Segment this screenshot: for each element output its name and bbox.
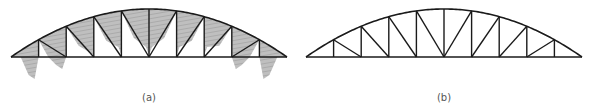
diagonal-member — [499, 26, 527, 57]
moment-diagram — [66, 17, 94, 55]
truss-figure — [0, 0, 594, 111]
caption-a: (a) — [129, 92, 169, 103]
truss-panel-b — [306, 9, 582, 57]
moment-diagram — [94, 11, 122, 55]
moment-diagram — [11, 40, 39, 79]
moment-diagram — [204, 17, 232, 55]
diagonal-member — [416, 11, 444, 57]
caption-b: (b) — [424, 92, 464, 103]
moment-diagram — [149, 9, 177, 55]
diagonal-member — [334, 40, 362, 57]
diagonal-member — [527, 40, 555, 57]
moment-diagram — [259, 40, 287, 79]
diagonal-member — [389, 17, 417, 57]
diagonal-member — [444, 11, 472, 57]
truss-panel-a — [11, 9, 287, 79]
diagonal-member — [472, 17, 500, 57]
moment-diagram — [121, 9, 149, 55]
moment-diagram — [177, 11, 205, 55]
diagonal-member — [361, 26, 389, 57]
